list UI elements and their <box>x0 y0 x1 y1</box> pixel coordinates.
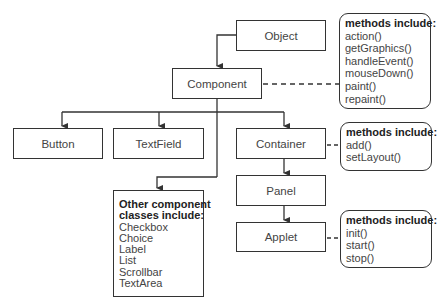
class-container-label: Container <box>256 138 306 150</box>
method-item: handleEvent() <box>345 55 425 68</box>
class-panel: Panel <box>236 175 326 206</box>
class-object-label: Object <box>264 30 297 42</box>
other-header: classes include: <box>119 210 198 221</box>
component-methods-note: methods include: action() getGraphics() … <box>339 13 431 109</box>
container-methods-note: methods include: add() setLayout() <box>340 122 432 171</box>
class-component: Component <box>172 68 262 99</box>
class-applet-label: Applet <box>265 231 298 243</box>
class-object: Object <box>236 20 326 51</box>
method-item: init() <box>346 227 426 240</box>
class-container: Container <box>236 128 326 159</box>
method-item: add() <box>346 139 426 152</box>
method-item: paint() <box>345 80 425 93</box>
other-component-classes: Other component classes include: Checkbo… <box>113 190 204 297</box>
note-header: methods include: <box>346 126 426 139</box>
method-item: repaint() <box>345 93 425 106</box>
applet-methods-note: methods include: init() start() stop() <box>340 210 432 268</box>
class-panel-label: Panel <box>266 185 295 197</box>
class-button: Button <box>13 128 103 159</box>
method-item: mouseDown() <box>345 67 425 80</box>
method-item: action() <box>345 30 425 43</box>
class-button-label: Button <box>41 138 74 150</box>
method-item: stop() <box>346 252 426 265</box>
method-item: getGraphics() <box>345 42 425 55</box>
class-textfield-label: TextField <box>135 138 181 150</box>
note-header: methods include: <box>345 17 425 30</box>
class-textfield: TextField <box>113 128 204 159</box>
class-item: TextArea <box>119 278 198 289</box>
class-component-label: Component <box>187 78 246 90</box>
note-header: methods include: <box>346 214 426 227</box>
method-item: setLayout() <box>346 151 426 164</box>
class-applet: Applet <box>236 222 326 252</box>
method-item: start() <box>346 239 426 252</box>
